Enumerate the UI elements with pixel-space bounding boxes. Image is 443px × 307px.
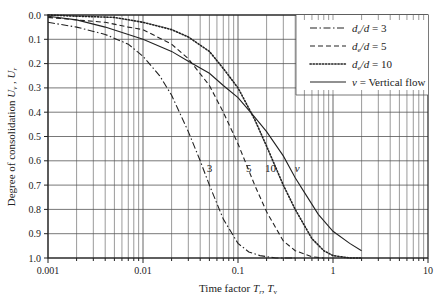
legend: de/d = 3de/d = 5de/d = 10v = Vertical fl… bbox=[296, 15, 428, 95]
y-axis-label: Degree of consolidation Uv , Ur bbox=[5, 68, 19, 207]
y-tick-label: 0.1 bbox=[29, 34, 42, 45]
x-axis-label: Time factor Tr, Tv bbox=[199, 282, 277, 296]
curve-label: 5 bbox=[246, 162, 252, 174]
y-tick-label: 0.4 bbox=[29, 107, 42, 118]
y-tick-label: 0.8 bbox=[29, 204, 42, 215]
x-axis-ticks: 0.0010.010.1110 bbox=[37, 258, 433, 276]
y-tick-label: 1.0 bbox=[29, 253, 42, 264]
x-tick-label: 10 bbox=[423, 265, 433, 276]
y-tick-label: 0.7 bbox=[29, 180, 42, 191]
consolidation-chart: 0.00.10.20.30.40.50.60.70.80.91.0 0.0010… bbox=[0, 0, 443, 307]
x-tick-label: 0.001 bbox=[37, 265, 60, 276]
x-tick-label: 0.01 bbox=[134, 265, 152, 276]
y-tick-label: 0.3 bbox=[29, 82, 42, 93]
x-tick-label: 0.1 bbox=[232, 265, 245, 276]
y-tick-label: 0.9 bbox=[29, 228, 42, 239]
y-tick-label: 0.0 bbox=[29, 10, 42, 21]
legend-label-2: de/d = 5 bbox=[352, 40, 387, 54]
x-tick-label: 1 bbox=[331, 265, 336, 276]
series-line-2 bbox=[48, 17, 324, 258]
y-tick-label: 0.6 bbox=[29, 155, 42, 166]
y-tick-label: 0.2 bbox=[29, 58, 42, 69]
curve-label: 3 bbox=[207, 162, 213, 174]
curve-label: 10 bbox=[265, 162, 277, 174]
curve-label: v bbox=[295, 162, 300, 174]
y-tick-label: 0.5 bbox=[29, 131, 42, 142]
y-axis-ticks: 0.00.10.20.30.40.50.60.70.80.91.0 bbox=[29, 10, 49, 264]
legend-label-1: de/d = 3 bbox=[352, 22, 387, 36]
legend-label-4: v = Vertical flow bbox=[352, 76, 426, 88]
curve-labels: 3510v bbox=[207, 162, 300, 174]
